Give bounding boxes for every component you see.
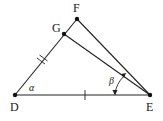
label-G: G bbox=[52, 21, 61, 35]
angle-alpha-label: α bbox=[29, 82, 35, 93]
segment-DF bbox=[15, 19, 77, 95]
point-E bbox=[148, 93, 152, 97]
segment-GE bbox=[64, 34, 150, 95]
point-F bbox=[75, 17, 79, 21]
point-D bbox=[13, 93, 17, 97]
point-G bbox=[62, 32, 66, 36]
label-D: D bbox=[10, 100, 19, 114]
angle-beta-label: β bbox=[108, 75, 114, 86]
label-E: E bbox=[146, 100, 153, 114]
triangle-diagram: F G D E α β bbox=[0, 0, 163, 121]
label-F: F bbox=[73, 1, 80, 15]
